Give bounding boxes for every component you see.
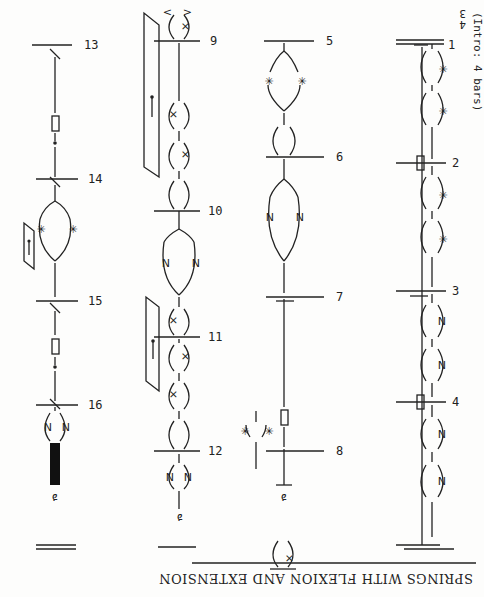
svg-text:✳: ✳ xyxy=(439,232,448,245)
x-loop: × xyxy=(169,143,190,169)
spring-star: ✳ xyxy=(421,93,448,125)
staff-3: ዩ N N 12 × × 11 xyxy=(144,6,222,547)
pin-bracket xyxy=(24,223,34,269)
x-loop: × xyxy=(169,345,190,371)
svg-text:N: N xyxy=(266,210,274,223)
svg-text:×: × xyxy=(181,148,190,161)
svg-text:N: N xyxy=(438,314,446,327)
split-n-n: N N xyxy=(162,229,200,295)
spring-n: N xyxy=(421,465,446,497)
staff-4: ዩ N N 16 15 ✳ ✳ xyxy=(24,38,102,549)
page-title: SPRINGS WITH FLEXION AND EXTENSION xyxy=(159,571,473,586)
svg-text:N: N xyxy=(438,358,446,371)
bar-number: 10 xyxy=(208,204,222,218)
spring-star: ✳ xyxy=(421,51,448,83)
bar-number: 4 xyxy=(452,395,459,409)
svg-text:✳: ✳ xyxy=(439,62,448,75)
bar-number: 9 xyxy=(210,34,217,48)
svg-text:>: > xyxy=(163,6,172,19)
spring-n: N xyxy=(421,349,446,381)
bar-number: 7 xyxy=(336,290,343,304)
flag-icon xyxy=(281,410,288,425)
bar-number: 3 xyxy=(452,284,459,298)
bar-number: 6 xyxy=(336,150,343,164)
loop-icon xyxy=(169,421,189,449)
x-loop: × < > xyxy=(163,6,192,39)
svg-text:×: × xyxy=(285,552,294,565)
pin-bracket xyxy=(146,297,159,391)
svg-text:×: × xyxy=(169,388,178,401)
svg-text:✳: ✳ xyxy=(69,222,78,235)
split-star-star: ✳ ✳ xyxy=(37,201,78,261)
bar-number: 15 xyxy=(88,294,102,308)
x-loop-arrows-icon: × xyxy=(270,541,296,569)
spring-star: ✳ xyxy=(421,177,448,209)
bar-number: 8 xyxy=(336,444,343,458)
split-n-n: N N xyxy=(266,179,304,261)
svg-text:✳: ✳ xyxy=(298,74,307,87)
dot-icon xyxy=(53,141,57,145)
svg-text:N: N xyxy=(162,256,170,269)
black-bar-icon xyxy=(50,443,60,485)
x-loop: × xyxy=(169,383,189,409)
bar-number: 14 xyxy=(88,172,102,186)
svg-text:N: N xyxy=(62,420,70,433)
svg-text:✳: ✳ xyxy=(241,424,250,437)
loop-icon xyxy=(273,127,295,155)
spring-n: N xyxy=(421,419,446,449)
svg-text:N: N xyxy=(166,470,174,483)
title-block: SPRINGS WITH FLEXION AND EXTENSION xyxy=(159,563,476,586)
spring-n-n: N N xyxy=(166,465,192,489)
staff-1: N N 4 N N 3 ✳ xyxy=(396,38,459,549)
time-sig-bottom: 4 xyxy=(459,18,466,31)
bar-number: 1 xyxy=(448,38,455,52)
pin-bracket xyxy=(144,13,159,177)
bar-number: 5 xyxy=(326,34,333,48)
bar-number: 11 xyxy=(208,330,222,344)
spring-n-n: N N xyxy=(44,413,70,441)
svg-text:N: N xyxy=(44,420,52,433)
bar-number: 13 xyxy=(84,38,98,52)
svg-text:×: × xyxy=(181,350,190,363)
svg-text:N: N xyxy=(438,427,446,440)
figure-icon: ዩ xyxy=(281,491,287,504)
figure-icon: ዩ xyxy=(177,511,183,524)
intro-note: (Intro: 4 bars) xyxy=(471,12,484,111)
svg-text:×: × xyxy=(169,108,178,121)
x-loop: × xyxy=(169,309,189,335)
split-star-star: ✳ ✳ xyxy=(265,51,307,111)
bar-number: 2 xyxy=(452,156,459,170)
svg-text:<: < xyxy=(183,6,192,19)
figure-icon: ዩ xyxy=(52,491,58,504)
svg-text:✳: ✳ xyxy=(439,104,448,117)
bar-number: 12 xyxy=(208,444,222,458)
bar-number: 16 xyxy=(88,398,102,412)
svg-text:N: N xyxy=(184,470,192,483)
x-loop: × xyxy=(169,103,189,129)
flag-icon xyxy=(52,116,59,131)
svg-text:✳: ✳ xyxy=(265,424,274,437)
intro-text: (Intro: 4 bars) xyxy=(471,12,484,111)
time-signature: 3 4 xyxy=(459,7,466,31)
svg-text:×: × xyxy=(169,314,178,327)
notation-score: SPRINGS WITH FLEXION AND EXTENSION (Intr… xyxy=(0,0,484,597)
svg-text:✳: ✳ xyxy=(265,74,274,87)
svg-text:×: × xyxy=(181,20,190,33)
svg-text:✳: ✳ xyxy=(37,222,46,235)
split-star-star: ✳ ✳ xyxy=(241,411,274,469)
loop-icon xyxy=(169,181,189,209)
spring-n: N xyxy=(421,305,446,337)
spring-star: ✳ xyxy=(421,221,448,253)
staff-2: × ዩ 8 ✳ ✳ 7 N N 6 xyxy=(241,34,343,569)
svg-text:N: N xyxy=(438,474,446,487)
svg-text:N: N xyxy=(192,256,200,269)
dot-icon xyxy=(53,365,57,369)
svg-text:N: N xyxy=(296,210,304,223)
notation-page: SPRINGS WITH FLEXION AND EXTENSION (Intr… xyxy=(0,0,484,597)
flag-icon xyxy=(52,339,59,354)
svg-text:✳: ✳ xyxy=(439,188,448,201)
